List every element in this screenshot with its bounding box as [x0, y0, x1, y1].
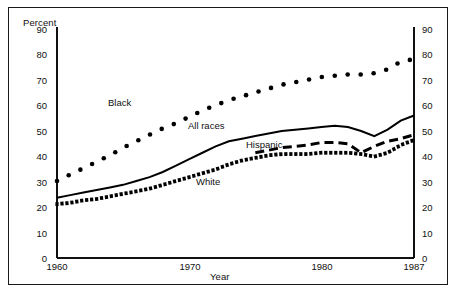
plot-area — [0, 0, 462, 300]
series-layer — [55, 58, 414, 206]
axis-lines — [57, 27, 414, 258]
series-all-races — [57, 116, 414, 198]
chart-figure: Percent Year 0 10 20 30 40 50 60 70 80 9… — [0, 0, 462, 300]
series-white — [55, 138, 414, 206]
